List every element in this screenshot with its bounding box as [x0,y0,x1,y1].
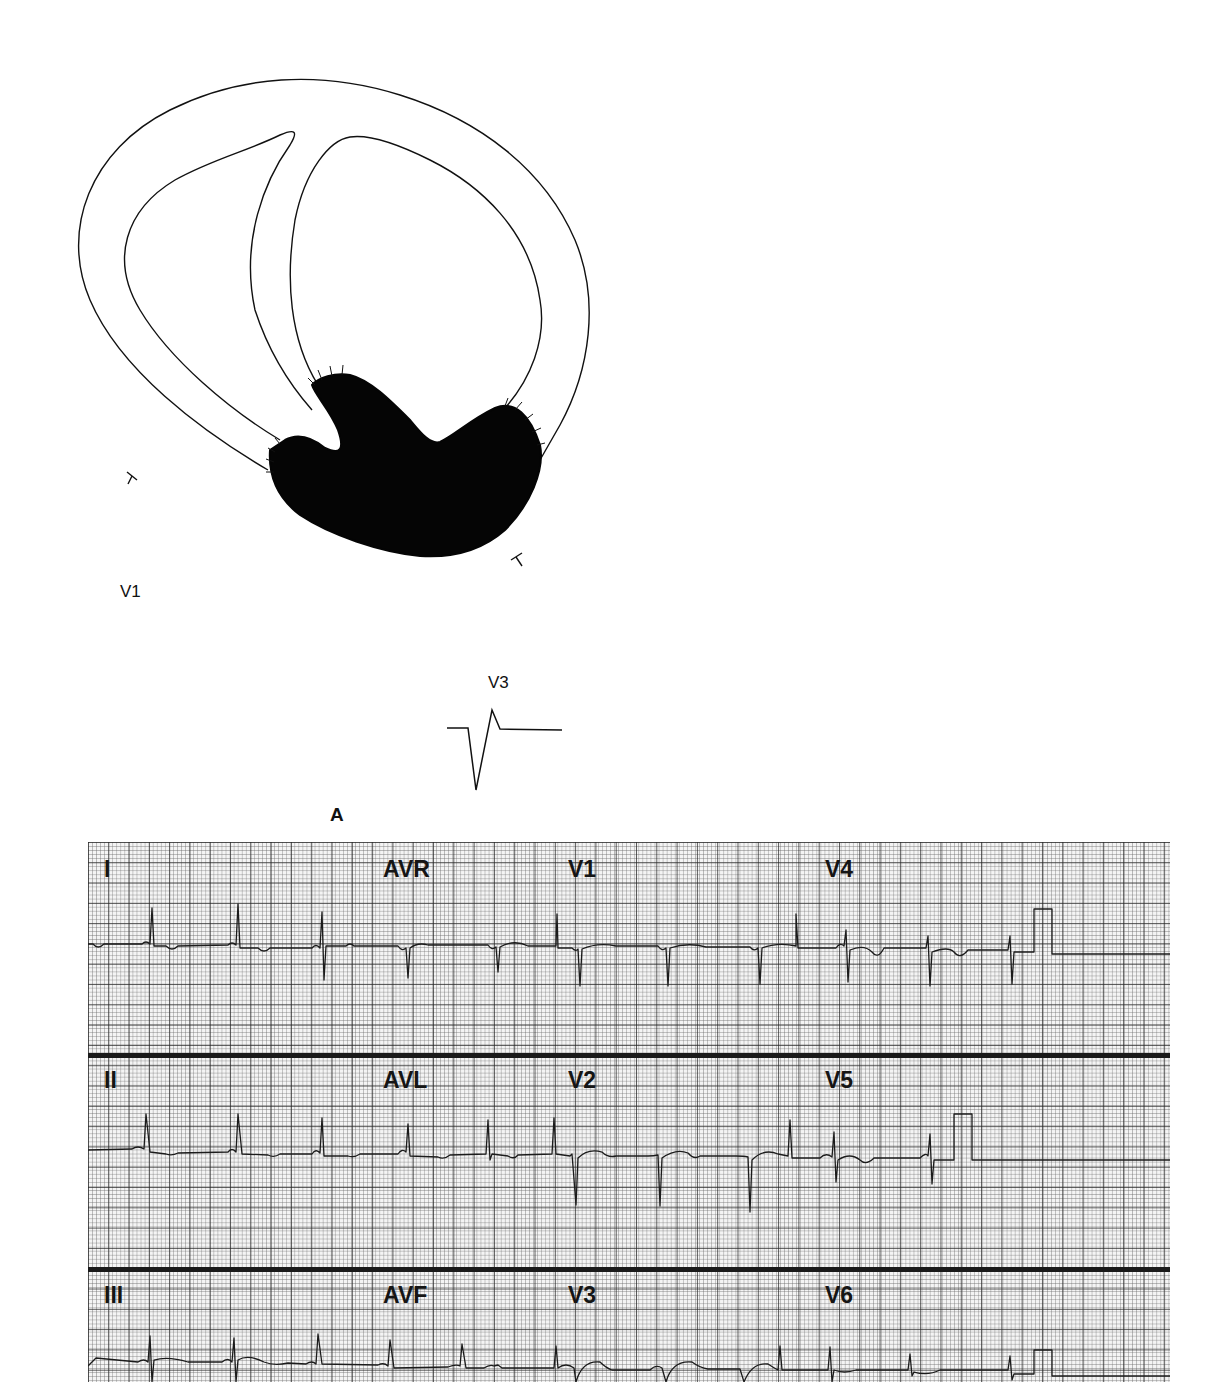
ecg-12-lead-strip: I AVR V1 V4 II AVL V2 V5 III AVF V3 V6 [88,842,1170,1382]
infarct-region [270,374,541,556]
left-ventricle-cavity-outline [290,137,541,408]
v1-schematic-label: V1 [120,582,141,602]
heart-cross-section-diagram [0,0,640,600]
trace-row-1 [88,904,1170,986]
right-ventricle-cavity-outline [125,132,312,440]
v3-schematic-label: V3 [488,673,509,693]
cut-mark-left-icon [127,472,137,484]
trace-row-2 [88,1114,1170,1212]
v3-qr-complex-diagram [440,700,570,800]
cut-mark-right-icon [511,553,522,566]
v3-qr-complex-trace [447,710,562,790]
trace-row-3 [88,1334,1170,1382]
panel-label: A [330,804,344,826]
ecg-traces [88,842,1170,1382]
